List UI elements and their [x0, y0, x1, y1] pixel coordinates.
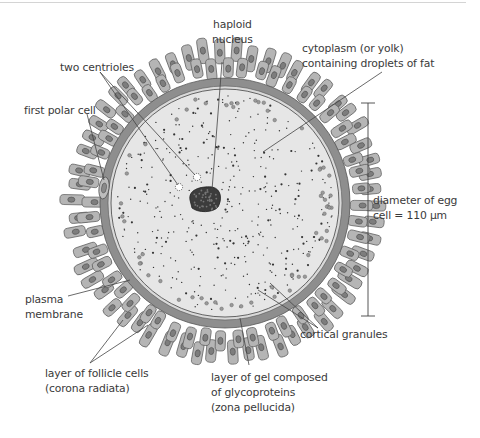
label-plasma-membrane: plasma membrane: [25, 292, 83, 322]
label-two-centrioles: two centrioles: [60, 60, 134, 75]
label-zona-pellucida: layer of gel composed of glycoproteins (…: [211, 370, 328, 415]
cytoplasm: [111, 89, 339, 317]
label-cytoplasm: cytoplasm (or yolk) containing droplets …: [302, 41, 434, 71]
haploid-nucleus: [190, 187, 221, 212]
label-cortical-granules: cortical granules: [300, 327, 388, 342]
label-first-polar-cell: first polar cell: [24, 103, 96, 118]
label-diameter: diameter of egg cell = 110 µm: [373, 193, 457, 223]
label-follicle-cells: layer of follicle cells (corona radiata): [45, 366, 149, 396]
label-haploid-nucleus: haploid nucleus: [212, 17, 253, 47]
